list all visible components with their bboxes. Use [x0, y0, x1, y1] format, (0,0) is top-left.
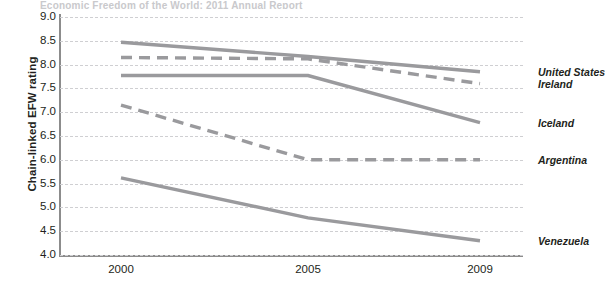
series-label-united-states: United States — [538, 66, 605, 78]
series-line-iceland — [121, 76, 480, 123]
series-label-iceland: Iceland — [538, 117, 574, 129]
chart-title: Economic Freedom of the World: 2011 Annu… — [40, 0, 303, 9]
y-tick-label: 4.5 — [22, 224, 56, 236]
gridline — [60, 255, 523, 256]
x-tick-label: 2005 — [278, 263, 338, 275]
series-line-argentina — [121, 105, 480, 160]
y-tick-label: 8.0 — [22, 58, 56, 70]
series-label-argentina: Argentina — [538, 154, 587, 166]
y-tick-label: 7.0 — [22, 105, 56, 117]
series-line-venezuela — [121, 178, 480, 241]
series-line-ireland — [121, 57, 480, 83]
series-line-united-states — [121, 42, 480, 72]
y-tick-label: 6.5 — [22, 129, 56, 141]
y-tick-label: 7.5 — [22, 81, 56, 93]
y-tick-label: 9.0 — [22, 10, 56, 22]
y-tick-label: 8.5 — [22, 34, 56, 46]
y-tick-label: 5.0 — [22, 200, 56, 212]
series-lines — [60, 17, 523, 255]
cropped-title-strip: Economic Freedom of the World: 2011 Annu… — [40, 0, 340, 9]
y-axis-tick-labels: 9.08.58.07.57.06.56.05.55.04.54.0 — [18, 17, 56, 255]
y-tick-label: 6.0 — [22, 153, 56, 165]
y-tick-label: 4.0 — [22, 248, 56, 260]
series-label-venezuela: Venezuela — [538, 235, 589, 247]
plot-area — [60, 17, 523, 255]
series-label-ireland: Ireland — [538, 78, 572, 90]
x-tick-label: 2000 — [91, 263, 151, 275]
x-tick-label: 2009 — [450, 263, 510, 275]
y-tick-label: 5.5 — [22, 177, 56, 189]
